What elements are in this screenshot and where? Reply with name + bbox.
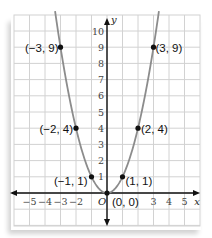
x-tick-label: −3 — [53, 196, 67, 207]
parabola-chart: −5−4−3−234512345678910Oxy (−3, 9)(−2, 4)… — [0, 0, 212, 238]
point-label: (−1, 1) — [54, 175, 88, 187]
y-tick-label: 6 — [98, 90, 104, 101]
y-tick-label: 9 — [98, 42, 104, 53]
x-tick-label: −4 — [38, 196, 52, 207]
data-point — [120, 174, 125, 179]
origin-label: O — [98, 196, 106, 207]
point-label: (1, 1) — [126, 175, 153, 187]
x-tick-label: −2 — [69, 196, 83, 207]
y-tick-label: 7 — [98, 74, 104, 85]
point-label: (−3, 9) — [25, 42, 59, 54]
y-tick-label: 4 — [98, 123, 104, 134]
point-label: (0, 0) — [112, 196, 139, 208]
data-point — [89, 174, 94, 179]
data-point — [104, 190, 109, 195]
data-point — [73, 126, 78, 131]
data-point — [135, 126, 140, 131]
y-tick-label: 8 — [98, 58, 104, 69]
x-tick-label: 3 — [150, 196, 156, 207]
y-axis-label: y — [110, 14, 117, 25]
y-tick-label: 10 — [92, 26, 104, 37]
point-label: (−2, 4) — [39, 123, 73, 135]
y-tick-label: 1 — [98, 171, 104, 182]
x-axis-label: x — [194, 196, 200, 207]
point-label: (3, 9) — [156, 42, 183, 54]
x-tick-label: −5 — [22, 196, 36, 207]
y-tick-label: 2 — [98, 155, 104, 166]
y-tick-label: 3 — [98, 139, 104, 150]
point-label: (2, 4) — [141, 123, 168, 135]
x-tick-label: 5 — [181, 196, 187, 207]
data-point — [58, 45, 63, 50]
y-tick-label: 5 — [98, 107, 104, 118]
x-tick-label: 4 — [166, 196, 172, 207]
